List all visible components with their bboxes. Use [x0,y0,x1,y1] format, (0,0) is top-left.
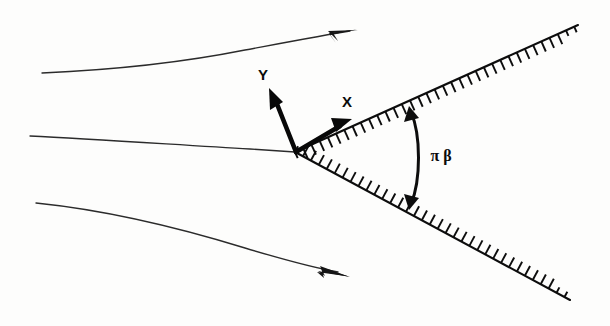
upper-streamline [42,30,358,74]
wedge-hatch-tick [361,123,366,133]
wedge-hatch-tick [493,249,498,259]
wedge-hatch-tick [477,240,482,250]
wedge-hatch-tick [311,151,316,161]
wedge-hatch-tick [533,45,538,55]
wedge-angle-arc-head-bottom [404,194,419,210]
wedge-hatch-tick [382,189,387,199]
wedge-lower-edge [295,152,570,300]
wedge-hatch-tick [327,159,332,169]
wedge-hatch-tick [350,172,355,182]
wedge-hatch-tick [517,53,522,63]
wedge-flow-diagram: X Y π β [0,0,610,326]
wedge-hatch-tick [343,168,348,178]
wedge-hatch-tick [438,219,443,229]
x-axis-label: X [342,93,352,110]
wedge-hatch-tick [564,292,567,297]
wedge-hatch-tick [328,137,333,147]
wedge-hatch-tick [335,164,340,174]
wedge-angle-label: π β [430,147,451,165]
wedge-hatch-tick [374,185,379,195]
y-axis-shaft [277,104,296,152]
wedge-hatch-tick [566,30,568,36]
wedge-hatch-tick [390,194,395,204]
lower-streamline [36,203,350,278]
wedge-hatch-tick [451,82,456,92]
wedge-hatch-tick [418,97,423,107]
wedge-hatch-tick [426,93,431,103]
wedge-hatch-tick [446,223,451,233]
stagnation-streamline-path [30,136,295,152]
wedge-hatch-tick [377,115,382,125]
wedge-hatch-tick [485,245,490,255]
wedge-hatch-tick [358,176,363,186]
wedge-hatch-tick [459,78,464,88]
wedge-hatch-tick [469,236,474,246]
wedge-hatch-tick [541,41,546,51]
wedge-hatch-tick [366,181,371,191]
wedge-hatch-tick [394,108,399,118]
wedge-hatch-tick [467,75,472,85]
wedge-hatch-tick [492,64,497,74]
wedge-hatch-tick [525,49,530,59]
stagnation-streamline [30,136,295,152]
wedge-hatch-tick [422,211,427,221]
wedge-hatch-tick [369,119,374,129]
wedge-hatch-tick [476,71,481,81]
wedge-hatch-tick [558,34,563,44]
wedge-hatch-tick [454,228,459,238]
x-axis-arrow [296,118,352,152]
wedge-hatch-tick [541,275,546,285]
wedge-hatch-tick [336,134,341,144]
wedge-hatch-tick [550,38,555,48]
wedge-hatch-tick [398,198,403,208]
y-axis-arrow [269,88,296,152]
wedge-hatch-tick [574,27,576,33]
wedge-hatch-tick [517,262,522,272]
wedge-hatch-tick [509,257,514,267]
wedge-upper-edge [295,25,578,152]
upper-streamline-path [42,31,350,73]
wedge-hatch-tick [414,206,419,216]
wedge-hatch-tick [500,60,505,70]
wedge-hatch-tick [508,56,513,66]
lower-streamline-arrowhead-fill [317,268,349,278]
wedge-hatch-tick [352,126,357,136]
x-axis-shaft [296,126,340,152]
wedge-hatch-tick [320,141,325,151]
wedge-hatch-tick [557,287,560,292]
wedge-hatch-tick [385,111,390,121]
wedge-hatch-tick [443,86,448,96]
wedge-hatch-tick [319,155,324,165]
wedge-hatch-tick [435,89,440,99]
lower-streamline-path [36,203,338,272]
wedge-hatch-tick [484,67,489,77]
wedge-hatch-tick [344,130,349,140]
wedge-hatch-tick [533,270,538,280]
wedge-angle-indicator [404,106,419,210]
wedge-hatch-tick [461,232,466,242]
wedge-angle-arc [411,112,419,204]
diagram-canvas: X Y π β [0,0,610,326]
wedge-hatch-tick [501,253,506,263]
wedge-upper-hatching [295,27,577,159]
wedge-hatch-tick [430,215,435,225]
streamline-group [30,30,358,279]
y-axis-label: Y [258,66,268,83]
wedge-hatch-tick [549,279,554,289]
wedge-hatch-tick [525,266,530,276]
wedge-hatch-tick [402,104,407,114]
